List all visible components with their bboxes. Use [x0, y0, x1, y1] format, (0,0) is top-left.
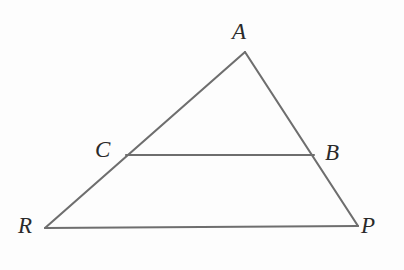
vertex-label-p: P [361, 214, 375, 237]
vertex-label-c: C [95, 138, 110, 161]
geometry-figure: A B C R P [0, 0, 404, 270]
triangle-side-ar [45, 52, 245, 228]
vertex-label-r: R [18, 214, 32, 237]
triangle-side-ap [245, 52, 358, 226]
vertex-label-b: B [325, 141, 339, 164]
triangle-diagram-canvas [0, 0, 404, 270]
vertex-label-a: A [232, 20, 246, 43]
triangle-base-rp [45, 226, 358, 228]
